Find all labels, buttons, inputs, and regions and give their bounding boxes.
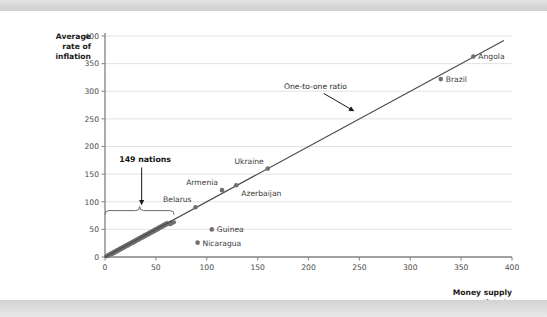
x-tick-label: 350 xyxy=(454,263,469,272)
point-label-nicaragua: Nicaragua xyxy=(203,239,242,248)
top-gray-band xyxy=(0,0,547,11)
y-tick-label: 200 xyxy=(85,142,100,151)
x-tick-label: 250 xyxy=(352,263,367,272)
labeled-data-point xyxy=(195,240,200,245)
one-to-one-ratio-line xyxy=(105,40,504,257)
ratio-annotation-arrow xyxy=(324,93,352,110)
y-tick-label: 300 xyxy=(85,87,100,96)
point-label-armenia: Armenia xyxy=(186,178,218,187)
point-label-guinea: Guinea xyxy=(217,225,244,234)
ratio-annotation-text: One-to-one ratio xyxy=(284,82,347,91)
x-tick-label: 50 xyxy=(151,263,161,272)
y-tick-label: 0 xyxy=(94,253,99,262)
x-tick-label: 0 xyxy=(103,263,108,272)
nations-annotation-text: 149 nations xyxy=(119,155,171,164)
point-label-azerbaijan: Azerbaijan xyxy=(241,189,281,198)
annotations-group: 149 nationsOne-to-one ratio xyxy=(105,82,352,215)
y-axis-title: Averagerate ofinflation xyxy=(55,32,91,61)
labeled-data-point xyxy=(234,183,239,188)
y-tick-label: 250 xyxy=(85,115,100,124)
x-tick-label: 200 xyxy=(301,263,316,272)
labeled-data-point xyxy=(471,54,476,59)
x-axis-title: Money supplygrowth rate xyxy=(453,288,512,300)
y-tick-label: 50 xyxy=(89,225,99,234)
scatter-plot-svg: 0501001502002503003504000501001502002503… xyxy=(0,11,547,300)
cluster-points-group xyxy=(104,220,176,258)
labeled-data-point xyxy=(220,188,225,193)
chart-figure: 0501001502002503003504000501001502002503… xyxy=(0,11,547,300)
screenshot-page: 0501001502002503003504000501001502002503… xyxy=(0,0,547,317)
point-label-angola: Angola xyxy=(478,52,504,61)
y-tick-label: 150 xyxy=(85,170,100,179)
labeled-data-point xyxy=(210,227,215,232)
y-tick-label: 100 xyxy=(85,198,100,207)
point-label-ukraine: Ukraine xyxy=(234,157,264,166)
labeled-data-point xyxy=(193,205,198,210)
x-tick-label: 300 xyxy=(403,263,418,272)
labeled-data-point xyxy=(266,166,271,171)
x-tick-label: 150 xyxy=(250,263,265,272)
x-tick-label: 400 xyxy=(505,263,520,272)
bottom-gray-band xyxy=(0,300,547,317)
nations-annotation-brace xyxy=(105,207,174,215)
axis-titles-group: Averagerate ofinflationMoney supplygrowt… xyxy=(55,32,512,300)
point-label-brazil: Brazil xyxy=(446,75,467,84)
one-to-one-line xyxy=(105,40,504,257)
point-label-belarus: Belarus xyxy=(163,195,192,204)
labeled-data-point xyxy=(438,77,443,82)
data-point xyxy=(172,220,176,224)
x-tick-label: 100 xyxy=(200,263,215,272)
